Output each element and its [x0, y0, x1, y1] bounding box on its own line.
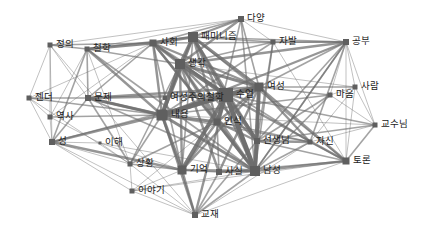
- node: [99, 142, 102, 145]
- node-label: 자발: [279, 36, 297, 46]
- edge: [355, 87, 375, 125]
- node-label: 교재: [201, 209, 219, 219]
- node: [130, 189, 135, 194]
- node: [250, 166, 260, 176]
- node: [216, 169, 222, 175]
- edge: [153, 42, 346, 43]
- node: [328, 93, 333, 98]
- node-label: 사회: [160, 37, 178, 47]
- node: [163, 96, 167, 100]
- node: [254, 138, 260, 144]
- edge: [130, 164, 132, 191]
- network-edges: [29, 19, 375, 215]
- node-label: 다양: [247, 13, 265, 23]
- node-label: 여성: [267, 81, 285, 91]
- node-label: 사람: [361, 81, 379, 91]
- node-label: 토론: [353, 155, 371, 165]
- node: [128, 162, 133, 167]
- edge: [50, 45, 88, 98]
- node: [49, 139, 55, 145]
- node-label: 이야기: [138, 185, 165, 195]
- node: [178, 166, 187, 175]
- node: [373, 123, 378, 128]
- node: [27, 96, 32, 101]
- node-label: 이해: [105, 137, 123, 147]
- node-label: 문제: [94, 92, 112, 102]
- node-label: 자신: [316, 136, 334, 146]
- node-label: 교수님: [381, 119, 408, 129]
- node: [85, 95, 91, 101]
- edge: [52, 49, 87, 142]
- node: [188, 32, 198, 42]
- node-label: 인식: [224, 116, 242, 126]
- node: [214, 119, 221, 126]
- node-label: 패미니즘: [201, 31, 237, 41]
- node: [255, 83, 264, 92]
- edge: [255, 42, 346, 171]
- node-label: 여성주의철학: [170, 92, 224, 102]
- node: [343, 39, 349, 45]
- node-label: 생각: [188, 58, 206, 68]
- node-label: 사실: [225, 166, 243, 176]
- node-label: 역사: [56, 111, 74, 121]
- edge: [29, 98, 52, 142]
- node-label: 젠더: [35, 92, 53, 102]
- node-label: 철학: [93, 43, 111, 53]
- node: [271, 40, 276, 45]
- node: [48, 115, 53, 120]
- node: [150, 40, 157, 47]
- node: [192, 212, 198, 218]
- node-label: 정의: [56, 39, 74, 49]
- node-label: 내용: [171, 109, 189, 119]
- node-label: 기억: [190, 164, 208, 174]
- node: [308, 140, 313, 145]
- node-label: 수업: [236, 89, 254, 99]
- node: [238, 16, 244, 22]
- node-label: 성: [58, 136, 67, 146]
- node-label: 공부: [352, 36, 370, 46]
- node-label: 상황: [136, 158, 154, 168]
- edge: [182, 170, 195, 215]
- node: [343, 158, 350, 165]
- node-label: 마음: [336, 89, 354, 99]
- node: [48, 43, 53, 48]
- node: [85, 47, 90, 52]
- node-label: 선생님: [263, 135, 290, 145]
- node: [175, 59, 185, 69]
- node: [157, 110, 168, 121]
- node-label: 남성: [263, 165, 281, 175]
